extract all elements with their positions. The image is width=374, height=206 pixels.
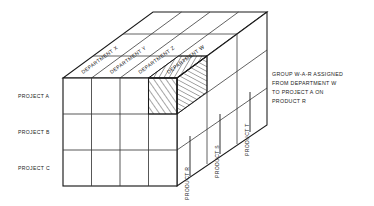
highlight-front-face xyxy=(149,78,178,114)
three-dimensional-matrix-diagram: DEPARTMENT X DEPARTMENT Y DEPARTMENT Z D… xyxy=(0,0,374,206)
annotation-line-4: PRODUCT R xyxy=(272,98,306,104)
annotation-line-1: GROUP W-A-R ASSIGNED xyxy=(272,71,343,77)
product-label-r: PRODUCT R xyxy=(184,167,190,200)
diagram-canvas: DEPARTMENT X DEPARTMENT Y DEPARTMENT Z D… xyxy=(0,0,374,206)
annotation-line-3: TO PROJECT A ON xyxy=(272,89,324,95)
project-label-b: PROJECT B xyxy=(18,129,50,135)
product-label-t: PRODUCT T xyxy=(244,123,250,156)
project-label-a: PROJECT A xyxy=(18,93,50,99)
annotation-line-2: FROM DEPARTMENT W xyxy=(272,80,337,86)
project-label-c: PROJECT C xyxy=(18,165,50,171)
product-label-s: PRODUCT S xyxy=(214,145,220,178)
